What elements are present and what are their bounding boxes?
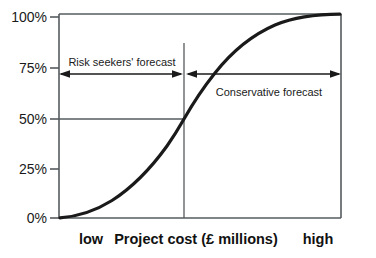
risk-seekers-forecast-label: Risk seekers' forecast — [68, 56, 175, 68]
y-tick-label-50: 50% — [19, 111, 47, 127]
y-tick-label-75: 75% — [19, 60, 47, 76]
y-tick-label-25: 25% — [19, 161, 47, 177]
conservative-forecast-label: Conservative forecast — [216, 86, 322, 98]
conservative-arrow-head-right — [330, 70, 341, 78]
x-tick-label-high: high — [303, 231, 334, 247]
risk-seekers-arrow-head-left — [59, 70, 70, 78]
chart-container: 100% 75% 50% 25% 0% Risk seekers' foreca… — [0, 0, 376, 258]
risk-seekers-arrow-head-right — [172, 70, 183, 78]
cumulative-probability-chart: 100% 75% 50% 25% 0% Risk seekers' foreca… — [0, 0, 376, 258]
x-tick-label-low: low — [79, 231, 104, 247]
y-tick-label-0: 0% — [27, 210, 47, 226]
y-tick-label-100: 100% — [11, 9, 47, 25]
conservative-arrow-head-left — [186, 70, 197, 78]
x-axis-title: Project cost (£ millions) — [114, 231, 278, 247]
cumulative-probability-curve — [60, 14, 340, 218]
